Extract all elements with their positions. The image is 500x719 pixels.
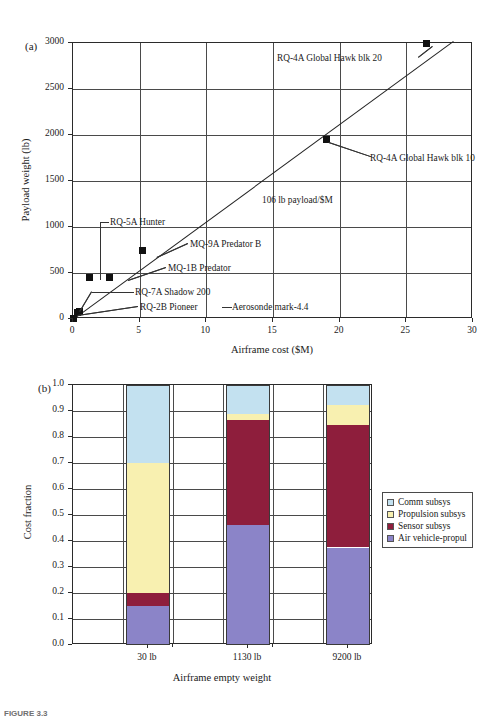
x-tick-mark-minor <box>272 644 273 647</box>
x-tick-mark <box>347 644 348 648</box>
y-tick-label: 0.1 <box>32 612 64 622</box>
legend-item: Propulsion subsys <box>387 508 467 520</box>
y-tick-label: 2000 <box>30 128 64 138</box>
figure-caption: FIGURE 3.3 <box>4 709 48 718</box>
panel-b-x-axis-title: Airframe empty weight <box>72 672 372 683</box>
gridline-vertical <box>223 385 224 643</box>
y-tick-label: 0.8 <box>32 430 64 440</box>
x-tick-mark <box>72 318 73 322</box>
legend-label: Propulsion subsys <box>398 509 465 519</box>
y-tick-label: 0 <box>30 312 64 322</box>
legend-item: Comm subsys <box>387 496 467 508</box>
y-tick-label: 1.0 <box>32 378 64 388</box>
gridline-vertical <box>206 43 207 317</box>
x-tick-label: 30 <box>452 325 492 335</box>
data-point <box>139 247 146 254</box>
stacked-bar <box>226 385 270 645</box>
data-point <box>86 274 93 281</box>
x-tick-mark <box>405 318 406 322</box>
bar-segment <box>226 414 270 421</box>
bar-segment <box>326 405 370 426</box>
x-tick-label: 10 <box>185 325 225 335</box>
y-tick-mark <box>68 42 72 43</box>
y-tick-label: 0.6 <box>32 482 64 492</box>
leader-line <box>100 222 109 223</box>
panel-b-plot-area <box>72 384 372 644</box>
y-tick-label: 0.3 <box>32 560 64 570</box>
legend-label: Air vehicle-propul <box>398 533 467 543</box>
gridline-horizontal <box>73 181 471 182</box>
y-tick-label: 0.5 <box>32 508 64 518</box>
bar-segment <box>226 420 270 525</box>
bar-segment <box>326 548 370 646</box>
y-tick-mark <box>68 436 72 437</box>
annotation-label: MQ-9A Predator B <box>190 240 261 249</box>
bar-segment <box>226 385 270 414</box>
y-tick-label: 0.2 <box>32 586 64 596</box>
y-tick-mark <box>68 180 72 181</box>
panel-a-x-axis-title: Airframe cost ($M) <box>72 344 472 355</box>
y-tick-mark <box>68 134 72 135</box>
legend-item: Air vehicle-propul <box>387 532 467 544</box>
legend-item: Sensor subsys <box>387 520 467 532</box>
panel-b-legend: Comm subsysPropulsion subsysSensor subsy… <box>382 492 473 548</box>
bar-segment <box>226 525 270 645</box>
leader-line <box>92 292 134 293</box>
y-tick-label: 0.4 <box>32 534 64 544</box>
y-tick-mark <box>68 566 72 567</box>
y-tick-mark <box>68 272 72 273</box>
y-tick-label: 3000 <box>30 36 64 46</box>
y-tick-label: 0.0 <box>32 638 64 648</box>
x-tick-label: 0 <box>52 325 92 335</box>
gridline-vertical <box>173 385 174 643</box>
annotation-label: MQ-1B Predator <box>168 264 231 273</box>
x-tick-mark-minor <box>172 644 173 647</box>
bar-segment <box>326 385 370 405</box>
gridline-vertical <box>123 385 124 643</box>
data-point <box>106 274 113 281</box>
panel-a-plot-area <box>72 42 472 318</box>
panel-b-stacked-bar-chart: (b) Cost fraction Airframe empty weight … <box>0 362 500 702</box>
gridline-vertical <box>323 385 324 643</box>
bar-segment <box>126 606 170 645</box>
y-tick-label: 0.9 <box>32 404 64 414</box>
annotation-label: RQ-4A Global Hawk blk 20 <box>277 54 382 63</box>
leader-line <box>222 307 232 308</box>
leader-line <box>100 222 101 280</box>
y-tick-mark <box>68 488 72 489</box>
x-tick-mark <box>339 318 340 322</box>
gridline-vertical <box>273 385 274 643</box>
category-label: 1130 lb <box>207 652 287 662</box>
annotation-label: RQ-5A Hunter <box>110 218 165 227</box>
x-tick-label: 20 <box>319 325 359 335</box>
legend-label: Comm subsys <box>398 497 450 507</box>
y-tick-mark <box>68 644 72 645</box>
legend-label: Sensor subsys <box>398 521 450 531</box>
gridline-vertical <box>273 43 274 317</box>
legend-swatch <box>387 523 394 530</box>
y-tick-mark <box>68 540 72 541</box>
y-tick-mark <box>68 226 72 227</box>
annotation-label: RQ-2B Pioneer <box>140 303 198 312</box>
x-tick-mark <box>472 318 473 322</box>
stacked-bar <box>326 385 370 645</box>
y-tick-mark <box>68 514 72 515</box>
figure-3-3: (a) Payload weight (lb) Airframe cost ($… <box>0 0 500 719</box>
annotation-label: RQ-4A Global Hawk blk 10 <box>370 154 475 163</box>
stacked-bar <box>126 385 170 645</box>
y-tick-mark <box>68 88 72 89</box>
y-tick-mark <box>68 462 72 463</box>
bar-segment <box>126 463 170 593</box>
legend-swatch <box>387 511 394 518</box>
y-tick-label: 1500 <box>30 174 64 184</box>
y-tick-label: 2500 <box>30 82 64 92</box>
legend-swatch <box>387 499 394 506</box>
x-tick-mark <box>147 644 148 648</box>
bar-segment <box>126 593 170 606</box>
category-label: 9200 lb <box>307 652 387 662</box>
category-label: 30 lb <box>107 652 187 662</box>
panel-a-scatter-chart: (a) Payload weight (lb) Airframe cost ($… <box>0 0 500 362</box>
gridline-horizontal <box>73 135 471 136</box>
annotation-label: Aerosonde mark-4.4 <box>232 303 308 312</box>
x-tick-label: 25 <box>385 325 425 335</box>
